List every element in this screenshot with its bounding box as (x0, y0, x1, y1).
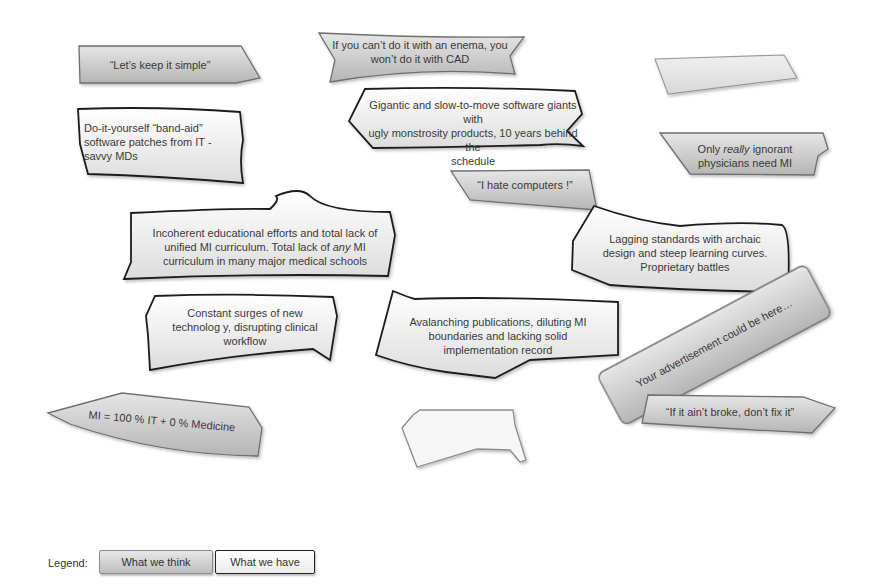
callout-software-giants-line2: ugly monstrosity products, 10 years behi… (362, 126, 584, 154)
callout-publications-line3: implementation record (398, 343, 598, 357)
callout-enema-cad: If you can’t do it with an enema, you wo… (320, 38, 520, 66)
callout-standards: Lagging standards with archaic design an… (590, 232, 780, 274)
callout-ignorant-physicians-line1: Only really ignorant (680, 142, 810, 156)
emphasis-text: really (723, 143, 749, 155)
callout-publications-line2: boundaries and lacking solid (398, 329, 598, 343)
callout-technology-surges-line2: technolog y, disrupting clinical (160, 320, 330, 334)
legend-item-what-we-think: What we think (99, 550, 213, 574)
callout-software-giants-line1: Gigantic and slow-to-move software giant… (362, 98, 584, 126)
callout-software-giants: Gigantic and slow-to-move software giant… (362, 98, 584, 168)
callout-standards-line2: design and steep learning curves. (590, 246, 780, 260)
callout-technology-surges-line3: workflow (160, 334, 330, 348)
text-segment: unified MI curriculum. Total lack of (164, 241, 333, 253)
callout-blank-top-right-shape (655, 55, 797, 94)
callout-hate-computers-text: “I hate computers !” (477, 179, 572, 191)
text-segment: ignorant (750, 143, 793, 155)
callout-hate-computers: “I hate computers !” (470, 178, 580, 192)
callout-enema-cad-line2: won’t do it with CAD (320, 52, 520, 66)
text-segment: MI (351, 241, 366, 253)
emphasis-text: any (333, 241, 351, 253)
callout-band-aid-line3: savvy MDs (84, 149, 244, 163)
callout-band-aid-line1: Do-it-yourself “band-aid” (84, 121, 244, 135)
callout-publications-line1: Avalanching publications, diluting MI (398, 315, 598, 329)
callout-curriculum-line2: unified MI curriculum. Total lack of any… (140, 240, 390, 254)
legend-title: Legend: (48, 557, 88, 569)
callout-blank-bottom-shape (402, 410, 526, 467)
callout-curriculum-line1: Incoherent educational efforts and total… (140, 226, 390, 240)
callout-technology-surges: Constant surges of new technolog y, disr… (160, 306, 330, 348)
callout-software-giants-line3: schedule (362, 154, 584, 168)
callout-technology-surges-line1: Constant surges of new (160, 306, 330, 320)
diagram-canvas (0, 0, 878, 586)
callout-curriculum: Incoherent educational efforts and total… (140, 226, 390, 268)
callout-standards-line3: Proprietary battles (590, 260, 780, 274)
callout-band-aid-line2: software patches from IT - (84, 135, 244, 149)
callout-keep-simple: “Let’s keep it simple” (80, 58, 240, 72)
callout-aint-broke: “If it ain’t broke, don’t fix it” (650, 405, 810, 419)
callout-keep-simple-text: “Let’s keep it simple” (110, 59, 211, 71)
callout-ignorant-physicians-line2: physicians need MI (680, 156, 810, 170)
callout-ignorant-physicians: Only really ignorant physicians need MI (680, 142, 810, 170)
callout-band-aid: Do-it-yourself “band-aid” software patch… (84, 121, 244, 163)
callout-enema-cad-line1: If you can’t do it with an enema, you (320, 38, 520, 52)
callout-standards-line1: Lagging standards with archaic (590, 232, 780, 246)
callout-aint-broke-text: “If it ain’t broke, don’t fix it” (666, 406, 794, 418)
callout-publications: Avalanching publications, diluting MI bo… (398, 315, 598, 357)
callout-curriculum-line3: curriculum in many major medical schools (140, 254, 390, 268)
legend-item-what-we-have: What we have (215, 550, 315, 574)
text-segment: Only (698, 143, 724, 155)
